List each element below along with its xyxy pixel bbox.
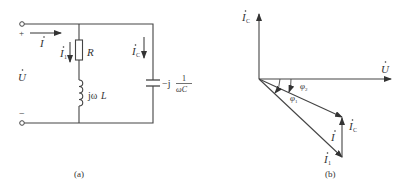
svg-text:jω: jω [87,90,98,101]
dot-accent [385,61,387,63]
current-branch1-label: I 1 [59,46,67,60]
phasor-diagram: I C U φ 2 φ 1 I I C I 1 [241,10,391,179]
dot-accent [352,119,354,121]
vector-I1-label: I 1 [323,152,331,166]
svg-text:−j: −j [162,78,170,89]
dot-accent [334,130,336,132]
voltage-axis-label: U [381,61,390,75]
dot-accent [63,46,65,48]
dot-accent [135,44,137,46]
svg-text:ωC: ωC [176,85,188,94]
circuit-diagram: + − U I I 1 R jω L I C −j 1 ω [18,22,192,179]
phi1-label: φ 1 [290,93,298,104]
svg-text:U: U [18,71,27,83]
caption-a: (a) [74,169,84,179]
vector-I-label: I [330,130,336,143]
resistor [76,40,83,60]
figure-canvas: + − U I I 1 R jω L I C −j 1 ω [0,0,408,192]
current-cap-label: I C [131,44,140,58]
capacitor-label: −j 1 ωC [162,74,192,94]
svg-text:1: 1 [295,99,298,104]
svg-text:1: 1 [64,54,67,60]
phi2-arc [289,79,291,92]
minus-sign: − [19,108,25,119]
dot-accent [327,152,329,154]
dot-accent [43,36,45,38]
bottom-terminal [20,121,25,126]
svg-text:C: C [353,127,357,133]
svg-text:U: U [381,63,390,75]
inductor [79,80,83,106]
top-terminal [20,22,25,27]
ic-axis-label: I C [241,10,250,24]
inductor-label: jω L [87,90,107,101]
phi1-arc [275,79,280,93]
vector-Ic-label: I C [348,119,357,133]
svg-text:C: C [246,18,250,24]
phi2-label: φ 2 [300,81,308,92]
svg-text:I: I [39,37,45,49]
caption-b: (b) [325,169,336,179]
svg-text:2: 2 [305,87,308,92]
plus-sign: + [19,28,24,38]
svg-text:1: 1 [328,160,331,166]
svg-text:C: C [136,52,140,58]
current-total-label: I [39,36,45,49]
svg-text:I: I [330,131,336,143]
svg-text:L: L [100,90,107,101]
dot-accent [22,69,24,71]
dot-accent [245,10,247,12]
resistor-label: R [86,46,94,58]
svg-text:1: 1 [182,74,186,83]
voltage-label: U [18,69,27,83]
